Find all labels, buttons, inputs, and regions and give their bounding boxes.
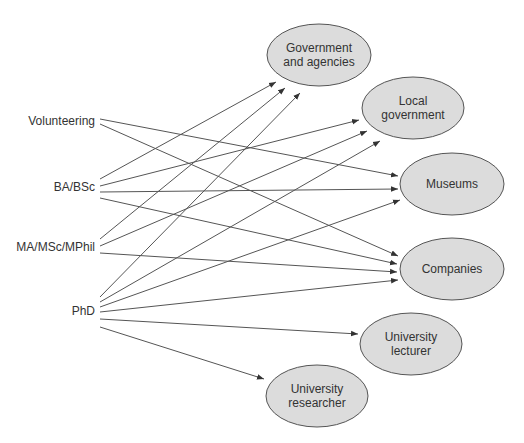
node-local: Localgovernment	[362, 77, 464, 139]
edge-ma-to-companies	[100, 253, 397, 272]
source-ma: MA/MSc/MPhil	[16, 240, 95, 254]
node-label: Museums	[426, 177, 478, 191]
node-label: government	[381, 108, 445, 122]
edge-phd-to-researcher	[100, 327, 264, 379]
node-label: University	[291, 382, 344, 396]
node-museums: Museums	[400, 153, 504, 215]
node-label: and agencies	[283, 55, 354, 69]
node-gov: Governmentand agencies	[267, 24, 371, 86]
edges	[100, 82, 400, 379]
node-companies: Companies	[400, 238, 504, 300]
node-label: Local	[399, 94, 428, 108]
career-pathways-diagram: Governmentand agenciesLocalgovernmentMus…	[0, 0, 524, 443]
source-volunteering: Volunteering	[28, 114, 95, 128]
node-label: University	[385, 330, 438, 344]
node-label: Companies	[422, 262, 483, 276]
edge-volunteering-to-museums	[100, 119, 398, 176]
node-lecturer: Universitylecturer	[360, 313, 462, 375]
edge-phd-to-companies	[100, 280, 398, 312]
source-phd: PhD	[72, 304, 95, 318]
node-researcher: Universityresearcher	[266, 365, 368, 427]
edge-ma-to-local	[100, 131, 367, 246]
source-ba: BA/BSc	[54, 180, 95, 194]
edge-ba-to-local	[100, 120, 359, 186]
edge-ba-to-museums	[100, 189, 398, 192]
node-label: lecturer	[391, 344, 431, 358]
edge-ba-to-gov	[100, 82, 276, 179]
edge-phd-to-lecturer	[100, 319, 358, 334]
diagram-canvas: Governmentand agenciesLocalgovernmentMus…	[0, 0, 524, 443]
node-label: Government	[286, 41, 353, 55]
edge-phd-to-local	[100, 141, 380, 302]
node-label: researcher	[288, 396, 345, 410]
target-nodes: Governmentand agenciesLocalgovernmentMus…	[266, 24, 504, 427]
